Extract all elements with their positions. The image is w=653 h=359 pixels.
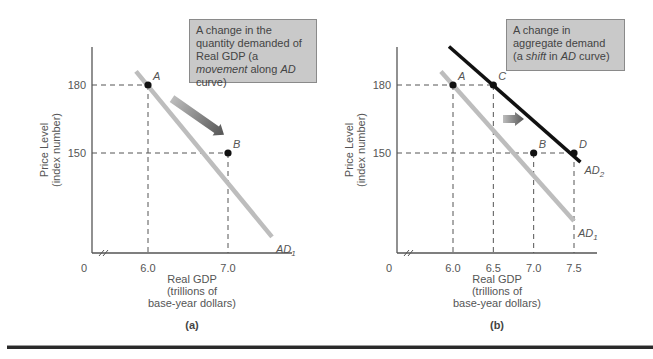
- origin-label: 0: [81, 262, 87, 274]
- point-b: [224, 149, 231, 156]
- curve-label-main: AD: [577, 227, 593, 239]
- x-axis-label-line3: base-year dollars): [148, 297, 236, 309]
- arrow-shape: [168, 93, 228, 141]
- x-tick-label: 6.0: [445, 262, 460, 274]
- x-tick-label: 7.5: [566, 262, 581, 274]
- x-tick-label: 7.0: [220, 262, 235, 274]
- x-tick-label: 7.0: [526, 262, 541, 274]
- panel-label: (b): [490, 319, 504, 331]
- x-axis-label-line3: base-year dollars): [453, 297, 541, 309]
- point-label-b: B: [233, 138, 240, 150]
- y-axis-label-line: Price Level: [343, 123, 355, 177]
- curve-label-main: AD: [583, 164, 599, 176]
- point-a: [449, 81, 456, 88]
- y-axis-label: Price Level(index number): [343, 113, 367, 187]
- point-b: [530, 149, 537, 156]
- annotation-box-a: A change in the quantity demanded of Rea…: [189, 19, 317, 83]
- y-tick-label: 180: [68, 79, 86, 91]
- curve-ad1: [441, 71, 574, 221]
- curve-label-sub: 2: [599, 170, 605, 179]
- movement-arrow-icon: [503, 112, 524, 126]
- point-d: [570, 149, 577, 156]
- arrow-shape: [503, 112, 524, 126]
- y-axis-label-line: (index number): [355, 113, 367, 187]
- x-axis-label-line2: (trillions of: [472, 285, 523, 297]
- y-axis-label-line: (index number): [50, 113, 62, 187]
- x-axis-label-line2: (trillions of: [167, 285, 218, 297]
- y-tick-label: 150: [373, 147, 391, 159]
- x-tick-label: 6.0: [140, 262, 155, 274]
- bottom-rule: [7, 345, 653, 349]
- curve-label-sub: 1: [291, 249, 295, 258]
- point-a: [144, 81, 151, 88]
- panel-a: 01801506.07.0AD1ABPrice Level(index numb…: [38, 47, 296, 331]
- point-label-c: C: [498, 70, 506, 82]
- curve-label-ad2: AD2: [583, 164, 604, 179]
- curve-ad1: [136, 71, 272, 236]
- y-axis-label: Price Level(index number): [38, 113, 62, 187]
- point-label-a: A: [457, 70, 465, 82]
- point-c: [490, 81, 497, 88]
- y-tick-label: 150: [68, 147, 86, 159]
- panel-label: (a): [185, 319, 199, 331]
- y-axis-label-line: Price Level: [38, 123, 50, 177]
- point-label-b: B: [539, 138, 546, 150]
- movement-arrow-icon: [168, 93, 228, 141]
- x-axis-label-line1: Real GDP: [167, 273, 217, 285]
- curve-label-sub: 1: [593, 233, 597, 242]
- y-tick-label: 180: [373, 79, 391, 91]
- x-axis-label-line1: Real GDP: [472, 273, 522, 285]
- point-label-a: A: [152, 70, 160, 82]
- point-label-d: D: [579, 138, 587, 150]
- curve-label-ad1: AD1: [577, 227, 598, 242]
- origin-label: 0: [386, 262, 392, 274]
- curve-label-main: AD: [275, 243, 291, 255]
- panel-b: 01801506.06.57.07.5AD1AD2ACBDPrice Level…: [343, 46, 605, 331]
- curve-label-ad1: AD1: [275, 243, 296, 258]
- annotation-box-b: A change in aggregate demand (a shift in…: [506, 19, 625, 71]
